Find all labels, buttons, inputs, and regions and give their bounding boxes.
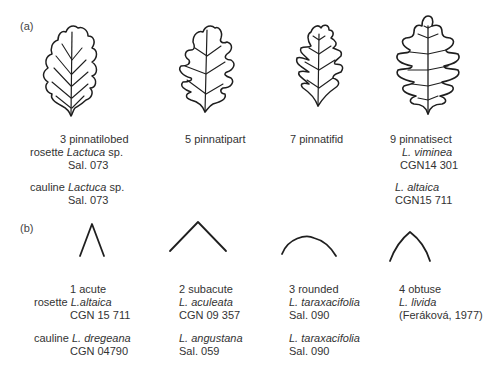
rosette-taxon-subacute: L. aculeata xyxy=(179,296,233,309)
leaf-caption-pinnatifid: 7 pinnatifid xyxy=(290,133,343,146)
leaf-caption-pinnatisect: 9 pinnatisect xyxy=(390,133,452,146)
cauline-accession-pinnatisect: CGN15 711 xyxy=(395,194,452,207)
apex-caption-subacute: 2 subacute xyxy=(179,283,233,296)
cauline-accession-subacute: Sal. 059 xyxy=(179,345,219,358)
cauline-taxon-rounded: L. taraxacifolia xyxy=(289,332,360,345)
rosette-accession-pinnatisect: CGN14 301 xyxy=(400,159,458,172)
cauline-specimen-pinnatilobed: cauline Lactuca sp. xyxy=(30,181,124,194)
apex-caption-obtuse: 4 obtuse xyxy=(399,283,441,296)
cauline-specimen-acute: cauline L. dregeana xyxy=(34,332,131,345)
rosette-accession-pinnatilobed: Sal. 073 xyxy=(68,159,108,172)
apex-caption-rounded: 3 rounded xyxy=(289,283,339,296)
rosette-taxon-pinnatisect: L. viminea xyxy=(402,146,452,159)
rosette-accession-subacute: CGN 09 357 xyxy=(179,309,240,322)
subacute-apex-icon xyxy=(168,220,230,254)
rosette-taxon-obtuse: L. livida xyxy=(399,296,436,309)
leaf-caption-pinnatilobed: 3 pinnatilobed xyxy=(60,133,129,146)
apex-caption-acute: 1 acute xyxy=(70,283,106,296)
panel-a-label: (a) xyxy=(20,20,33,32)
pinnatilobed-leaf-icon xyxy=(40,20,100,120)
rosette-taxon-rounded: L. taraxacifolia xyxy=(289,296,360,309)
rosette-accession-acute: CGN 15 711 xyxy=(70,309,130,322)
rounded-apex-icon xyxy=(280,234,340,258)
cauline-accession-pinnatilobed: Sal. 073 xyxy=(68,194,108,207)
panel-b-label: (b) xyxy=(20,222,33,234)
rosette-specimen-acute: rosette L.altaica xyxy=(34,296,112,309)
pinnatifid-leaf-icon xyxy=(293,22,349,108)
cauline-accession-acute: CGN 04790 xyxy=(70,345,128,358)
rosette-accession-rounded: Sal. 090 xyxy=(289,309,329,322)
cauline-accession-rounded: Sal. 090 xyxy=(289,345,329,358)
rosette-specimen-pinnatilobed: rosette Lactuca sp. xyxy=(30,146,123,159)
cauline-taxon-pinnatisect: L. altaica xyxy=(395,181,439,194)
cauline-taxon-subacute: L. angustana xyxy=(179,332,243,345)
rosette-citation-obtuse: (Feráková, 1977) xyxy=(399,309,483,322)
pinnatipart-leaf-icon xyxy=(175,20,237,116)
pinnatisect-leaf-icon xyxy=(392,14,464,118)
obtuse-apex-icon xyxy=(388,228,436,264)
leaf-caption-pinnatipart: 5 pinnatipart xyxy=(185,133,246,146)
acute-apex-icon xyxy=(78,220,108,260)
